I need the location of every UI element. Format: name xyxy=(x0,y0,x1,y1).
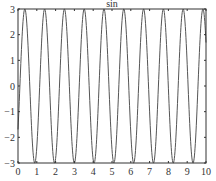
y-tick-label: 2 xyxy=(10,29,15,40)
chart-title: sin xyxy=(106,0,118,9)
y-tick-label: 0 xyxy=(10,81,15,92)
sin-chart: 012345678910−3−2−10123 sin xyxy=(0,0,216,181)
sin-line xyxy=(18,9,206,163)
x-tick-label: 5 xyxy=(110,166,115,177)
y-tick-label: 1 xyxy=(10,55,15,66)
x-tick-label: 10 xyxy=(201,166,211,177)
x-tick-label: 8 xyxy=(166,166,171,177)
y-tick-label: −3 xyxy=(4,158,15,169)
y-tick-label: −1 xyxy=(4,106,15,117)
x-tick-label: 1 xyxy=(34,166,39,177)
x-tick-label: 9 xyxy=(185,166,190,177)
x-tick-label: 3 xyxy=(72,166,77,177)
plot-area: 012345678910−3−2−10123 xyxy=(4,4,211,178)
y-tick-label: −2 xyxy=(4,132,15,143)
x-tick-label: 6 xyxy=(128,166,133,177)
y-tick-label: 3 xyxy=(10,4,15,15)
x-tick-label: 4 xyxy=(91,166,96,177)
x-tick-label: 2 xyxy=(53,166,58,177)
x-tick-label: 0 xyxy=(16,166,21,177)
x-tick-label: 7 xyxy=(147,166,152,177)
